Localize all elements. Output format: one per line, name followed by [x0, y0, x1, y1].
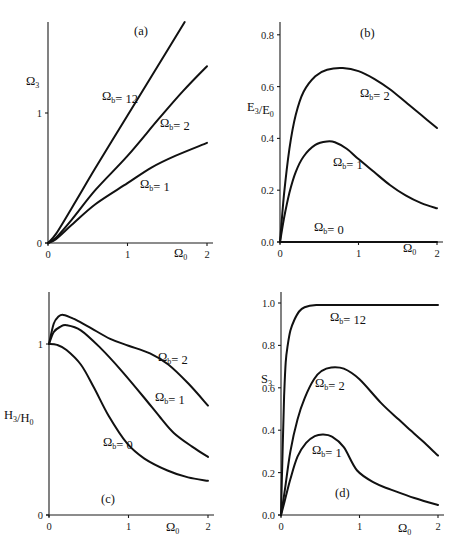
- y-tick-label: 0.2: [262, 468, 275, 479]
- series-label: Ωb= 1: [155, 390, 185, 407]
- x-axis-label: Ω0: [403, 241, 416, 257]
- series-label: Ωb= 1: [312, 443, 342, 460]
- x-axis-label: Ω0: [398, 521, 411, 537]
- x-tick-label: 1: [356, 248, 361, 259]
- series-label: Ωb= 1: [140, 177, 170, 194]
- series-label: Ωb= 12: [330, 310, 366, 327]
- panel-c: 01201Ωb= 2Ωb= 1Ωb= 0(c)Ω0H3/H0: [4, 292, 214, 536]
- series-label: Ωb= 1: [333, 155, 363, 172]
- figure-root: 01201Ωb= 12Ωb= 2Ωb= 1(a)Ω0Ω30120.00.20.4…: [0, 0, 462, 554]
- x-tick-label: 0: [45, 249, 50, 260]
- x-tick-label: 0: [277, 248, 282, 259]
- y-tick-label: 1: [37, 108, 42, 119]
- four-panel-line-chart: 01201Ωb= 12Ωb= 2Ωb= 1(a)Ω0Ω30120.00.20.4…: [0, 0, 462, 554]
- x-tick-label: 1: [126, 521, 131, 532]
- series-label: Ωb= 2: [158, 350, 188, 367]
- curve-d-1: [281, 367, 438, 515]
- x-tick-label: 2: [435, 521, 440, 532]
- series-label: Ωb= 2: [315, 376, 345, 393]
- panel-label: (d): [335, 486, 350, 500]
- series-label: Ωb= 2: [160, 116, 190, 133]
- y-tick-label: 0.4: [261, 133, 275, 144]
- curve-a-2: [48, 143, 207, 243]
- curve-d-2: [281, 434, 438, 515]
- x-tick-label: 0: [46, 521, 51, 532]
- x-tick-label: 1: [125, 249, 130, 260]
- y-axis-label: E3/E0: [247, 100, 274, 119]
- y-tick-label: 0.6: [261, 82, 274, 93]
- y-tick-label: 0.8: [262, 340, 275, 351]
- x-tick-label: 1: [357, 521, 362, 532]
- y-tick-label: 0.8: [261, 30, 274, 41]
- curve-a-0: [48, 22, 185, 243]
- y-tick-label: 0: [38, 510, 43, 521]
- panel-label: (c): [101, 492, 115, 506]
- series-label: Ωb= 2: [360, 86, 390, 103]
- panel-d: 0120.00.20.40.60.81.0Ωb= 12Ωb= 2Ωb= 1(d)…: [261, 292, 444, 537]
- series-label: Ωb= 0: [314, 220, 344, 237]
- y-tick-label: 0.2: [261, 185, 274, 196]
- curve-d-0: [281, 305, 438, 515]
- y-axis-label: H3/H0: [4, 408, 34, 427]
- curve-b-1: [280, 141, 437, 242]
- y-axis-label: Ω3: [26, 74, 39, 90]
- x-tick-label: 2: [205, 521, 210, 532]
- y-tick-label: 1.0: [262, 298, 275, 309]
- panel-label: (b): [360, 26, 375, 40]
- x-tick-label: 2: [204, 249, 209, 260]
- x-tick-label: 2: [434, 248, 439, 259]
- panel-label: (a): [134, 24, 148, 38]
- y-tick-label: 1: [38, 339, 43, 350]
- y-tick-label: 0.0: [261, 237, 274, 248]
- y-axis-label: S3: [261, 372, 272, 388]
- x-tick-label: 0: [278, 521, 283, 532]
- panel-a: 01201Ωb= 12Ωb= 2Ωb= 1(a)Ω0Ω3: [26, 22, 213, 262]
- series-label: Ωb= 0: [103, 435, 133, 452]
- y-tick-label: 0.4: [262, 425, 276, 436]
- x-axis-label: Ω0: [174, 246, 187, 262]
- x-axis-label: Ω0: [166, 520, 179, 536]
- series-label: Ωb= 12: [102, 89, 138, 106]
- panel-b: 0120.00.20.40.60.8Ωb= 2Ωb= 1Ωb= 0(b)Ω0E3…: [247, 22, 443, 259]
- y-tick-label: 0.0: [262, 510, 275, 521]
- y-tick-label: 0: [37, 238, 42, 249]
